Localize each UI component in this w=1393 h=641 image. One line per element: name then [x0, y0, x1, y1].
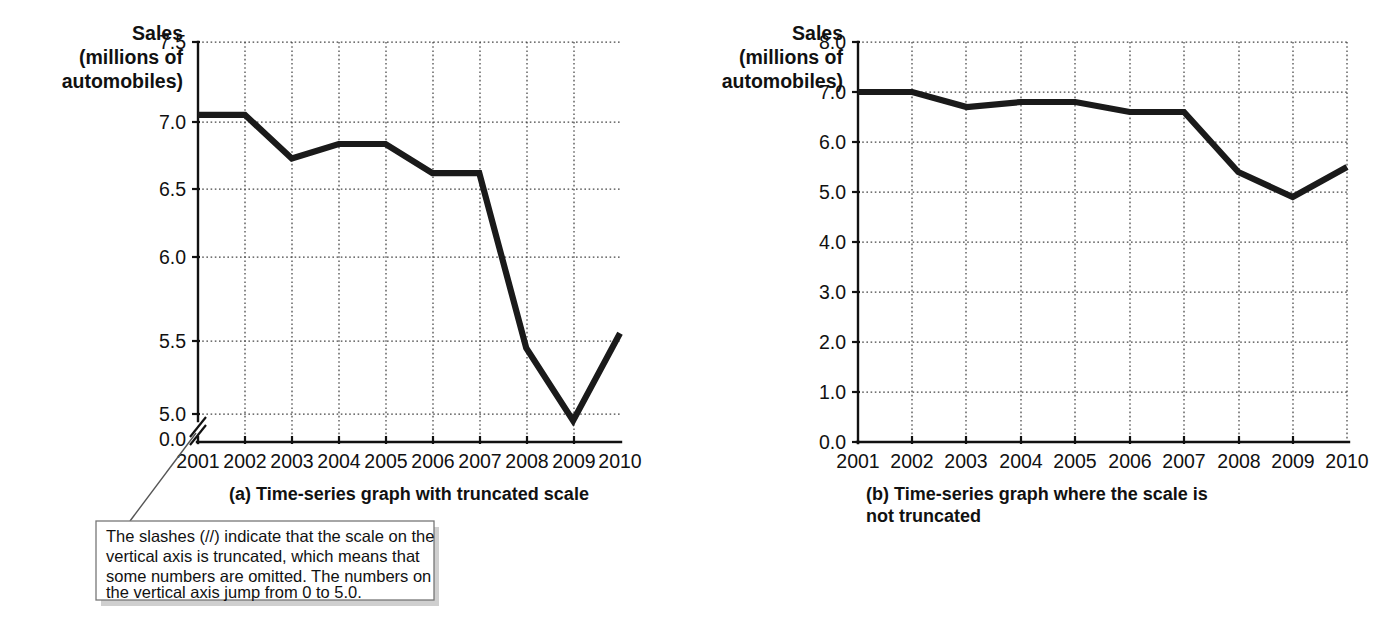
panel-a-xtick-2008: 2008 — [505, 450, 548, 472]
panel-a-ytick-5.5: 5.5 — [159, 330, 186, 352]
panel-a-xtick-2001: 2001 — [176, 450, 219, 472]
panel-a-xtick-2002: 2002 — [223, 450, 266, 472]
panel-a-ytick-6.0: 6.0 — [159, 246, 186, 268]
panel-b-xtick-2010: 2010 — [1325, 450, 1369, 472]
panel-a-ytick-0.0: 0.0 — [159, 428, 186, 450]
panel-a-ytick-6.5: 6.5 — [159, 178, 186, 200]
panel-b-xtick-2007: 2007 — [1162, 450, 1205, 472]
panel-b-ytick-2.0: 2.0 — [819, 331, 846, 353]
panel-a-xtick-2009: 2009 — [552, 450, 595, 472]
truncation-callout: The slashes (//) indicate that the scale… — [96, 521, 439, 606]
panel-a-ytick-7.0: 7.0 — [159, 111, 186, 133]
charts-figure: Sales (millions of automobiles) — [0, 0, 1393, 641]
chart-panel-b: Sales (millions of automobiles) — [722, 22, 1369, 472]
panel-a-xtick-2005: 2005 — [364, 450, 408, 472]
panel-a-xtick-2003: 2003 — [270, 450, 313, 472]
panel-a-caption: (a) Time-series graph with truncated sca… — [229, 484, 589, 504]
panel-b-data-line — [858, 92, 1347, 197]
panel-b-xtick-2008: 2008 — [1217, 450, 1260, 472]
callout-line-4: the vertical axis jump from 0 to 5.0. — [106, 583, 362, 601]
panel-b-xtick-2004: 2004 — [999, 450, 1043, 472]
chart-panel-a: Sales (millions of automobiles) — [62, 22, 642, 472]
panel-a-xtick-2010: 2010 — [598, 450, 642, 472]
panel-a-xtick-2007: 2007 — [458, 450, 501, 472]
panel-a-xtick-2006: 2006 — [411, 450, 454, 472]
panel-a-xtick-2004: 2004 — [317, 450, 361, 472]
callout-line-1: The slashes (//) indicate that the scale… — [106, 527, 434, 545]
panel-b-caption-line-2: not truncated — [866, 506, 981, 526]
panel-b-xtick-2009: 2009 — [1271, 450, 1314, 472]
panel-a-gridlines-vertical — [245, 42, 574, 442]
figure-root: Sales (millions of automobiles) — [0, 0, 1393, 641]
panel-b-ytick-3.0: 3.0 — [819, 281, 846, 303]
panel-b-xtick-2001: 2001 — [836, 450, 879, 472]
panel-b-ytick-4.0: 4.0 — [819, 231, 846, 253]
panel-a-data-line — [198, 115, 620, 421]
panel-a-ytick-7.5: 7.5 — [159, 31, 186, 53]
panel-b-xtick-2002: 2002 — [890, 450, 933, 472]
panel-b-xtick-2003: 2003 — [944, 450, 987, 472]
panel-b-ytick-7.0: 7.0 — [819, 81, 846, 103]
panel-b-caption-line-1: (b) Time-series graph where the scale is — [866, 484, 1208, 504]
panel-a-ylabel-line-3: automobiles) — [62, 70, 183, 92]
panel-b-ytick-8.0: 8.0 — [819, 31, 846, 53]
callout-line-2: vertical axis is truncated, which means … — [106, 547, 420, 565]
panel-b-gridlines-vertical — [912, 42, 1347, 442]
panel-b-ytick-5.0: 5.0 — [819, 181, 846, 203]
panel-a-gridlines-horizontal — [198, 42, 620, 414]
panel-b-ytick-6.0: 6.0 — [819, 131, 846, 153]
panel-b-xtick-2005: 2005 — [1053, 450, 1097, 472]
panel-b-xtick-2006: 2006 — [1108, 450, 1151, 472]
panel-a-ytick-5.0: 5.0 — [159, 403, 186, 425]
panel-b-ytick-1.0: 1.0 — [819, 381, 846, 403]
